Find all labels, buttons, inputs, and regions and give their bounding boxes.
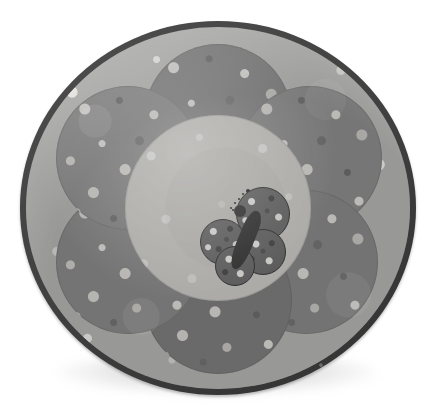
polka-dot-field [26, 27, 410, 389]
antenna-segment [234, 202, 236, 204]
butterfly-applique[interactable] [200, 185, 310, 295]
butterfly-head [234, 205, 246, 217]
scene-alt-text: Circular grey polka dot baby play mat wi… [0, 0, 1, 1]
round-play-mat[interactable] [20, 21, 416, 395]
scene-canvas: Circular grey polka dot baby play mat wi… [0, 0, 445, 418]
